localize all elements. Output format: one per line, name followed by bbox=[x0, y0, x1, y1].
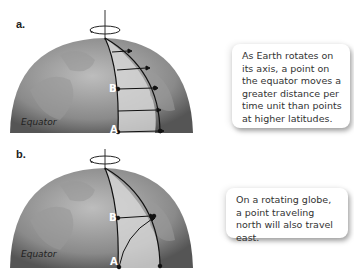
point-a-label: A bbox=[110, 124, 118, 135]
point-a-label: A bbox=[110, 256, 118, 267]
callout-b-text: On a rotating globe, a point traveling n… bbox=[236, 194, 333, 243]
callout-b: On a rotating globe, a point traveling n… bbox=[226, 188, 348, 238]
equator-label: Equator bbox=[21, 117, 58, 127]
globe-diagram-b: B A Equator bbox=[0, 135, 200, 270]
callout-a: As Earth rotates on its axis, a point on… bbox=[232, 44, 350, 128]
point-b-label: B bbox=[109, 212, 117, 223]
globe-diagram-a: B A Equator bbox=[0, 0, 200, 135]
equator-label: Equator bbox=[21, 249, 58, 259]
callout-a-text: As Earth rotates on its axis, a point on… bbox=[242, 50, 342, 124]
point-b-label: B bbox=[109, 83, 117, 94]
